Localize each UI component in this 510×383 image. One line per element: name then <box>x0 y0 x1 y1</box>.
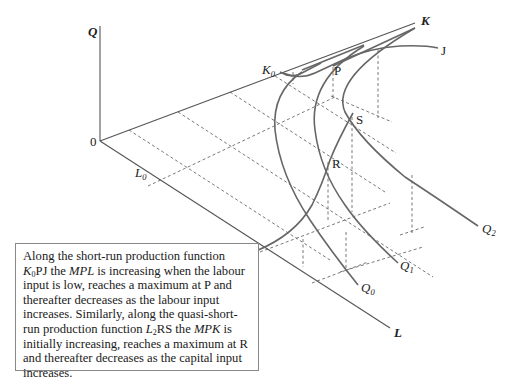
point-s-label: S <box>356 112 363 127</box>
surface-ridge-line <box>302 45 364 70</box>
k-axis-label: K <box>420 13 431 28</box>
q-axis-label: Q <box>88 24 98 39</box>
l-axis-label: L <box>393 325 402 340</box>
surface-ridge-line-2 <box>333 28 415 66</box>
short-run-production-function-k0pj <box>283 46 438 77</box>
point-r-label: R <box>332 156 341 171</box>
isoquant-q1 <box>314 46 398 263</box>
point-j-label: J <box>441 43 446 58</box>
k-axis <box>100 23 415 141</box>
l0-label: L0 <box>134 165 147 182</box>
caption-box: Along the short-run production function … <box>15 243 259 371</box>
quasi-short-run-production-function-l2rs <box>256 113 353 251</box>
q2-label: Q2 <box>482 221 496 238</box>
point-p-label: P <box>334 63 341 78</box>
q0-label: Q0 <box>361 280 375 297</box>
caption-text: Along the short-run production function … <box>23 249 252 380</box>
q1-label: Q1 <box>400 258 414 275</box>
isoquant-q2 <box>343 28 478 226</box>
origin-label: 0 <box>90 134 97 149</box>
k0-label: K0 <box>261 62 276 79</box>
